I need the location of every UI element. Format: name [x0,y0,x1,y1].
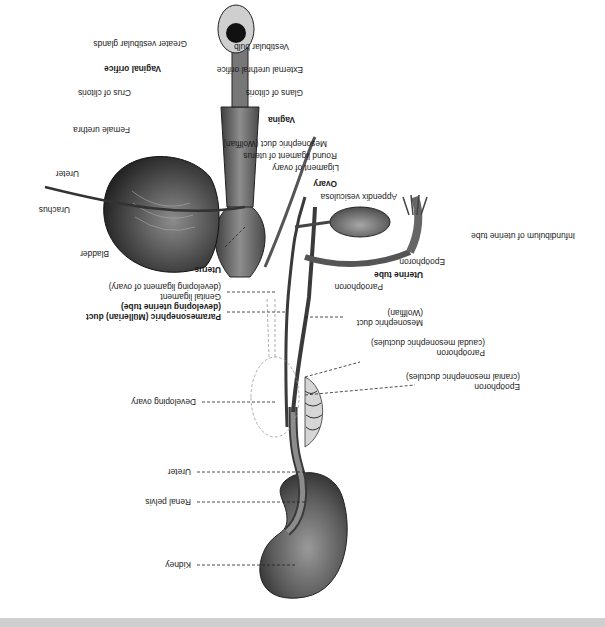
label-paroophoron-caudal: Paroöphoron (caudal mesonephric ductules… [371,338,485,357]
label-paroophoron-top: Paroöphoron [335,282,383,292]
label-paroophoron-caudal-line1: Paroöphoron [371,348,485,358]
label-ureter-top: Ureter [56,169,79,179]
label-mesonephric-duct-line1: Mesonephric duct [357,318,423,328]
label-mesonephric-duct-wolffian: Mesonephric duct (Wolffian) [223,139,327,149]
label-genital-ligament-line1: Genital ligament [109,292,221,302]
label-mesonephric-duct-line2: (Wolffian) [357,308,423,318]
label-glans-of-clitoris: Glans of clitoris [246,88,303,98]
label-vagina: Vagina [268,115,295,125]
label-female-urethra: Female urethra [73,125,130,135]
developing-ovary [251,357,299,437]
diagram-canvas: Kidney Renal pelvis Ureter Epoöphoron (c… [0,0,605,627]
label-ovary: Ovary [313,179,337,189]
label-developing-ovary: Developing ovary [131,397,196,407]
label-urachus: Urachus [39,205,70,215]
label-infundibulum: Infundibulum of uterine tube [471,231,575,241]
label-external-urethral-orifice: External urethral orifice [217,65,303,75]
label-paroophoron-caudal-line2: (caudal mesonephric ductules) [371,338,485,348]
label-round-ligament: Round ligament of uterus [243,151,337,161]
label-paramesonephric-duct: Paramesonephric (Müllerian) duct (develo… [86,302,221,321]
label-ligament-of-ovary: Ligament of ovary [272,163,339,173]
label-genital-ligament-line2: (developing ligament of ovary) [109,282,221,292]
label-genital-ligament: Genital ligament (developing ligament of… [109,282,221,301]
label-paramesonephric-line1: Paramesonephric (Müllerian) duct [86,312,221,322]
label-epoophoron-cranial-line1: Epoöphoron [406,382,520,392]
uterus [215,47,265,277]
label-vaginal-orifice: Vaginal orifice [104,64,161,74]
label-greater-vestibular-glands: Greater vestibular glands [93,39,187,49]
label-kidney: Kidney [165,560,191,570]
label-bladder: Bladder [80,249,109,259]
label-mesonephric-duct: Mesonephric duct (Wolffian) [357,308,423,327]
bladder [104,157,219,273]
label-crus-of-clitoris: Crus of clitoris [78,88,131,98]
ovary [330,207,390,237]
label-renal-pelvis: Renal pelvis [145,497,191,507]
label-epoophoron-top: Epoöphoron [399,257,445,267]
uterine-tube [305,252,410,264]
label-ureter-bottom: Ureter [168,467,191,477]
label-uterus: Uterus [194,265,221,275]
label-vestibular-bulb: Vestibular bulb [234,42,289,52]
epoophoron-fan [305,377,323,447]
label-uterine-tube: Uterine tube [374,270,423,280]
label-paramesonephric-line2: (developing uterine tube) [86,302,221,312]
label-epoophoron-cranial: Epoöphoron (cranial mesonephric ductules… [406,372,520,391]
label-appendix-vesiculosa: Appendix vesiculosa [321,192,397,202]
label-epoophoron-cranial-line2: (cranial mesonephric ductules) [406,372,520,382]
